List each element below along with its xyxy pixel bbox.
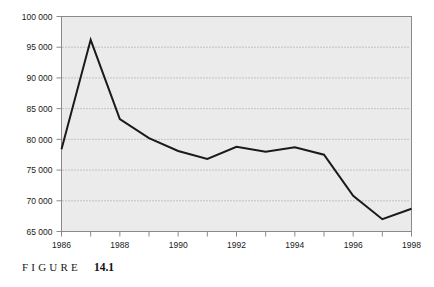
y-axis-tick-label: 85 000 xyxy=(27,104,53,114)
x-axis-tick-label: 1986 xyxy=(52,240,71,250)
x-axis-tick-label: 1998 xyxy=(402,240,421,250)
x-axis-tick-label: 1988 xyxy=(110,240,129,250)
x-axis-tick-label: 1994 xyxy=(285,240,304,250)
x-axis-tick-label: 1996 xyxy=(344,240,363,250)
y-axis-ticks-group xyxy=(57,17,62,232)
y-axis-tick-label: 100 000 xyxy=(22,12,53,22)
figure-caption-word: FIGURE xyxy=(22,261,81,273)
plot-background-rect xyxy=(62,17,412,232)
y-axis-tick-label: 95 000 xyxy=(27,42,53,52)
line-chart-svg: 65 00070 00075 00080 00085 00090 00095 0… xyxy=(0,0,434,250)
x-axis-ticks-group xyxy=(62,232,412,237)
plot-background-group xyxy=(62,17,412,232)
figure-caption: FIGURE 14.1 xyxy=(22,261,114,273)
x-axis-tick-label: 1990 xyxy=(169,240,188,250)
y-axis-tick-label: 80 000 xyxy=(27,135,53,145)
y-axis-tick-label: 70 000 xyxy=(27,196,53,206)
figure-container: 65 00070 00075 00080 00085 00090 00095 0… xyxy=(0,0,434,287)
figure-caption-number: 14.1 xyxy=(94,261,114,273)
x-axis-tick-label: 1992 xyxy=(227,240,246,250)
x-axis-tick-labels-group: 1986198819901992199419961998 xyxy=(52,240,421,250)
y-axis-tick-label: 90 000 xyxy=(27,73,53,83)
y-axis-tick-label: 65 000 xyxy=(27,227,53,237)
chart-plot-area: 65 00070 00075 00080 00085 00090 00095 0… xyxy=(0,0,434,250)
y-axis-tick-labels-group: 65 00070 00075 00080 00085 00090 00095 0… xyxy=(22,12,53,237)
y-axis-tick-label: 75 000 xyxy=(27,165,53,175)
